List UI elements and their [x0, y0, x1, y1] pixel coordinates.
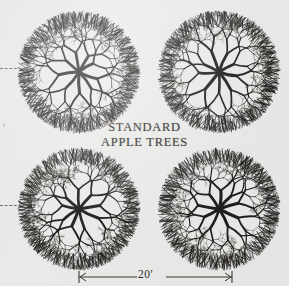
- tree-top-left: [14, 7, 144, 137]
- lower-spacing-dash: [0, 205, 26, 206]
- dimension-value: 20': [138, 268, 153, 280]
- upper-spacing-dash: [0, 68, 26, 69]
- center-label-line-2: APPLE TREES: [0, 135, 289, 150]
- tree-bottom-left: [14, 144, 144, 274]
- edge-dimension-mark: ': [3, 121, 5, 136]
- bottom-page-margin: [0, 286, 304, 296]
- tree-trunk-center: [76, 70, 82, 75]
- tree-top-right: [154, 7, 284, 137]
- tree-trunk-center: [76, 207, 82, 212]
- tree-trunk-center: [216, 70, 222, 75]
- center-label: STANDARD APPLE TREES: [0, 120, 289, 150]
- tree-bottom-right: [154, 144, 284, 274]
- tree-trunk-center: [216, 207, 222, 212]
- right-page-margin: [289, 0, 304, 296]
- illustration-panel: STANDARD APPLE TREES ' 20': [0, 0, 289, 286]
- center-label-line-1: STANDARD: [0, 120, 289, 135]
- dimension-label: 20': [0, 268, 289, 280]
- dimension-20ft: 20': [0, 262, 289, 286]
- orchard-spacing-figure: STANDARD APPLE TREES ' 20': [0, 0, 304, 296]
